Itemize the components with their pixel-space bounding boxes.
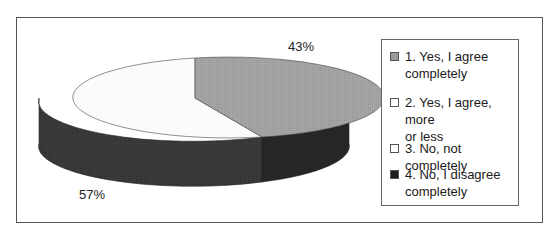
legend-item-4: 4. No, I disagree completely (390, 166, 515, 200)
chart-legend: 1. Yes, I agree completely 2. Yes, I agr… (381, 39, 519, 206)
legend-label: 4. No, I disagree (405, 167, 500, 182)
legend-swatch-black-icon (390, 170, 399, 179)
legend-item-2: 2. Yes, I agree, more or less (390, 94, 515, 145)
legend-swatch-white-icon (390, 98, 399, 107)
legend-label-cont: completely (405, 65, 515, 82)
legend-label: 2. Yes, I agree, more (405, 95, 492, 127)
data-label-57: 57% (79, 187, 105, 202)
legend-label-cont: completely (405, 183, 515, 200)
legend-swatch-white-icon (390, 144, 399, 153)
legend-label: 1. Yes, I agree (405, 49, 488, 64)
data-label-43: 43% (288, 39, 314, 54)
legend-item-1: 1. Yes, I agree completely (390, 48, 515, 82)
legend-swatch-gray-icon (390, 52, 399, 61)
